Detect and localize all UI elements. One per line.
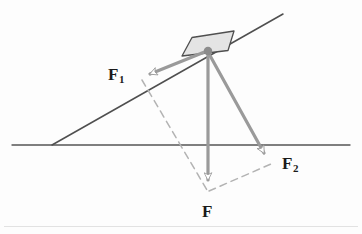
force-decomposition-figure <box>0 0 362 234</box>
label-f1: F1 <box>108 66 124 83</box>
label-f: F <box>202 203 213 220</box>
dashed-construction-line-f1-to-f <box>142 80 207 190</box>
label-f2-subscript: 2 <box>293 162 299 174</box>
diagram-canvas: F1 F2 F <box>0 0 362 234</box>
vector-f2 <box>208 52 264 153</box>
dashed-construction-line-f-to-f2 <box>209 164 271 191</box>
label-f2-base: F <box>282 154 293 173</box>
label-f1-base: F <box>108 65 119 84</box>
label-f1-subscript: 1 <box>119 73 125 85</box>
vector-origin-dot <box>204 47 212 55</box>
label-f2: F2 <box>282 155 298 172</box>
label-f-base: F <box>202 202 213 221</box>
